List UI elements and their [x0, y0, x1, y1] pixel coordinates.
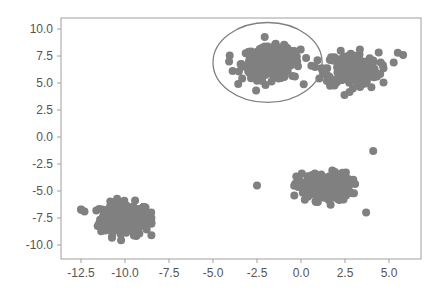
data-point: [334, 176, 342, 184]
data-point: [127, 214, 135, 222]
data-point: [380, 79, 388, 87]
data-point: [377, 59, 385, 67]
x-tick-label: 0.0: [293, 266, 310, 280]
data-point: [251, 73, 259, 81]
data-point: [348, 189, 356, 197]
data-point: [98, 206, 106, 214]
data-point: [131, 196, 139, 204]
data-point: [362, 209, 370, 217]
data-point: [109, 214, 117, 222]
data-point: [369, 147, 377, 155]
data-point: [295, 174, 303, 182]
data-point: [280, 68, 288, 76]
data-point: [96, 221, 104, 229]
data-point: [272, 40, 280, 48]
data-point: [252, 87, 260, 95]
data-point: [131, 222, 139, 230]
data-point: [347, 50, 355, 58]
data-point: [367, 83, 375, 91]
y-tick-label: 7.5: [36, 49, 53, 63]
data-point: [120, 197, 128, 205]
data-point: [283, 44, 291, 52]
data-point: [290, 192, 298, 200]
data-point: [261, 33, 269, 41]
data-point: [394, 49, 402, 57]
data-point: [349, 176, 357, 184]
data-point: [345, 75, 353, 83]
data-point: [135, 210, 143, 218]
data-point: [335, 68, 343, 76]
data-point: [311, 63, 319, 71]
data-point: [267, 57, 275, 65]
data-point: [300, 80, 308, 88]
data-point: [314, 56, 322, 64]
data-point: [289, 72, 297, 80]
data-point: [375, 49, 383, 57]
data-point: [297, 182, 305, 190]
data-point: [369, 57, 377, 65]
data-point: [326, 185, 334, 193]
data-point: [273, 72, 281, 80]
data-point: [312, 177, 320, 185]
data-point: [139, 203, 147, 211]
x-axis: -12.5-10.0-7.5-5.0-2.50.02.55.0: [67, 259, 397, 280]
data-point: [284, 58, 292, 66]
data-point: [117, 223, 125, 231]
data-point: [245, 51, 253, 59]
data-point: [361, 58, 369, 66]
data-point: [237, 60, 245, 68]
data-point: [234, 80, 242, 88]
x-tick-label: 5.0: [381, 266, 398, 280]
data-point: [346, 88, 354, 96]
data-point: [120, 209, 128, 217]
y-tick-label: 2.5: [36, 103, 53, 117]
data-point: [333, 58, 341, 66]
data-point: [338, 76, 346, 84]
data-point: [309, 189, 317, 197]
x-tick-label: -12.5: [67, 266, 95, 280]
data-point: [244, 68, 252, 76]
data-point: [323, 77, 331, 85]
data-point: [253, 182, 261, 190]
y-tick-label: -7.5: [32, 211, 53, 225]
data-point: [362, 77, 370, 85]
y-tick-label: -2.5: [32, 157, 53, 171]
y-axis: 10.07.55.02.50.0-2.5-5.0-7.5-10.0: [26, 22, 61, 252]
data-point: [390, 59, 398, 67]
scatter-chart: -12.5-10.0-7.5-5.0-2.50.02.55.0 10.07.55…: [0, 0, 443, 294]
x-tick-label: 2.5: [337, 266, 354, 280]
x-tick-label: -7.5: [159, 266, 180, 280]
x-tick-label: -10.0: [111, 266, 139, 280]
y-tick-label: -5.0: [32, 184, 53, 198]
data-point: [262, 81, 270, 89]
data-point: [348, 57, 356, 65]
data-point: [312, 197, 320, 205]
data-point: [147, 214, 155, 222]
data-point: [302, 54, 310, 62]
y-tick-label: 5.0: [36, 76, 53, 90]
y-tick-label: 0.0: [36, 130, 53, 144]
data-point: [347, 68, 355, 76]
data-point: [81, 208, 89, 216]
data-point: [327, 201, 335, 209]
data-point: [235, 68, 243, 76]
data-point: [226, 51, 234, 59]
data-point: [356, 50, 364, 58]
y-tick-label: 10.0: [30, 22, 54, 36]
data-point: [339, 187, 347, 195]
data-point: [106, 198, 114, 206]
x-tick-label: -2.5: [247, 266, 268, 280]
data-point: [272, 64, 280, 72]
data-point: [147, 231, 155, 239]
data-points: [77, 33, 407, 244]
data-point: [108, 234, 116, 242]
x-tick-label: -5.0: [203, 266, 224, 280]
y-tick-label: -10.0: [26, 238, 54, 252]
